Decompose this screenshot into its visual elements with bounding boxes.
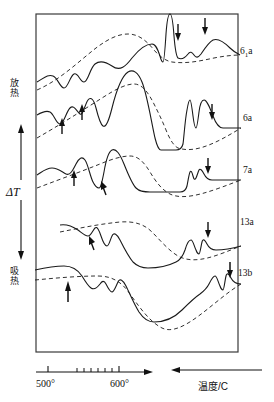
curve-label-6a: 6a <box>243 113 252 123</box>
x-axis-tick-label-600: 600° <box>110 378 129 389</box>
y-axis-endothermic-label: 吸热 <box>8 266 21 286</box>
curve-label-7a: 7a <box>243 165 252 175</box>
plot-frame <box>36 14 238 352</box>
curve-label-61a: 61a61a <box>240 46 252 59</box>
temperature-direction-arrow <box>171 367 262 373</box>
y-axis-exothermic-label: 放热 <box>8 78 21 98</box>
dta-figure <box>0 0 274 402</box>
x-axis-temperature-label: 温度/C <box>198 378 228 393</box>
x-axis-scale <box>36 366 153 375</box>
x-axis-tick-label-500: 500° <box>36 378 55 389</box>
curve-label-13b: 13b <box>238 268 252 278</box>
y-axis-delta-t-label: ΔT <box>6 185 20 200</box>
curve-label-61a-subscript: 1 <box>245 51 249 59</box>
curve-label-13a: 13a <box>240 217 254 227</box>
